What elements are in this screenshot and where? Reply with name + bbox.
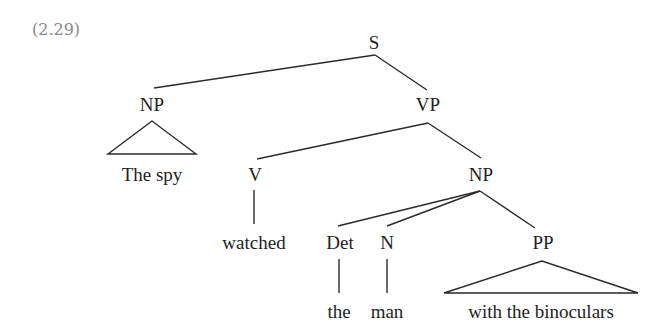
node-det: Det	[326, 232, 354, 253]
triangle-np-subj	[108, 121, 196, 154]
node-vp: VP	[416, 94, 440, 115]
tree-edges	[108, 55, 638, 293]
leaf-with-the-binoculars: with the binoculars	[468, 301, 614, 322]
triangle-pp	[444, 261, 638, 293]
node-np-subject: NP	[140, 94, 164, 115]
syntax-tree: S NP VP The spy V NP watched Det N PP th…	[0, 0, 671, 330]
node-v: V	[248, 164, 262, 185]
node-pp: PP	[532, 232, 553, 253]
edge-np-pp	[480, 191, 535, 228]
node-np-object: NP	[469, 164, 493, 185]
leaf-the: the	[327, 301, 350, 322]
tree-nodes: S NP VP The spy V NP watched Det N PP th…	[122, 32, 614, 322]
node-s: S	[369, 32, 380, 53]
edge-s-np	[154, 55, 375, 88]
leaf-watched: watched	[222, 232, 286, 253]
edge-s-vp	[375, 55, 427, 90]
leaf-the-spy: The spy	[122, 164, 183, 185]
edge-vp-v	[257, 123, 428, 159]
leaf-man: man	[371, 301, 404, 322]
edge-np-n	[387, 191, 480, 226]
node-n: N	[380, 232, 394, 253]
edge-vp-np	[428, 123, 481, 158]
edge-np-det	[338, 191, 480, 226]
